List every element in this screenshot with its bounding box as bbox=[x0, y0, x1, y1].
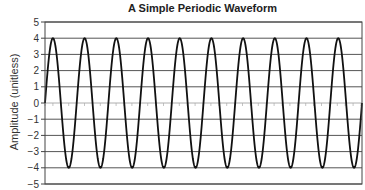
y-tick-label: 1 bbox=[33, 81, 39, 92]
y-tick-label: −1 bbox=[28, 114, 40, 125]
y-tick-label: −5 bbox=[28, 179, 40, 190]
y-tick-label: 4 bbox=[33, 33, 39, 44]
y-tick-labels: 543210−1−2−3−4−5 bbox=[28, 17, 40, 190]
y-tick-label: 2 bbox=[33, 65, 39, 76]
y-tick-label: −4 bbox=[28, 162, 40, 173]
waveform-line bbox=[45, 38, 362, 168]
chart-plot-area: 543210−1−2−3−4−5 bbox=[0, 0, 365, 190]
y-tick-label: 5 bbox=[33, 17, 39, 28]
y-tick-label: 0 bbox=[33, 98, 39, 109]
y-tick-label: −3 bbox=[28, 146, 40, 157]
y-tick-label: −2 bbox=[28, 130, 40, 141]
y-tick-label: 3 bbox=[33, 49, 39, 60]
